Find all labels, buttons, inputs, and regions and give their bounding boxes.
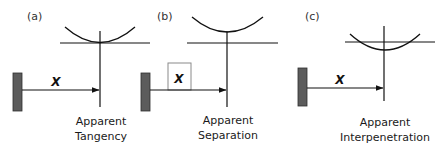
caption-a-line1: Apparent bbox=[76, 115, 127, 128]
panel-label-b: (b) bbox=[157, 10, 173, 23]
figure-canvas: (a) X Apparent Tangency (b) X Apparent S… bbox=[0, 0, 442, 158]
x-label-a: X bbox=[50, 75, 61, 89]
base-bar-b bbox=[141, 73, 150, 111]
panel-label-c: (c) bbox=[305, 10, 320, 23]
base-bar-a bbox=[13, 73, 22, 111]
caption-c-line1: Apparent bbox=[360, 116, 411, 129]
caption-a-line2: Tangency bbox=[74, 130, 127, 143]
panel-label-a: (a) bbox=[27, 10, 42, 23]
x-label-c: X bbox=[334, 73, 345, 87]
caption-c-line2: Interpenetration bbox=[340, 131, 430, 144]
panel-b: (b) X Apparent Separation bbox=[141, 10, 278, 142]
panel-a: (a) X Apparent Tangency bbox=[13, 10, 150, 143]
caption-b-line2: Separation bbox=[198, 129, 258, 142]
panel-c: (c) X Apparent Interpenetration bbox=[298, 10, 435, 144]
curved-surface-b bbox=[192, 17, 263, 32]
caption-b-line1: Apparent bbox=[203, 114, 254, 127]
base-bar-c bbox=[298, 68, 307, 106]
x-label-b: X bbox=[173, 72, 184, 86]
